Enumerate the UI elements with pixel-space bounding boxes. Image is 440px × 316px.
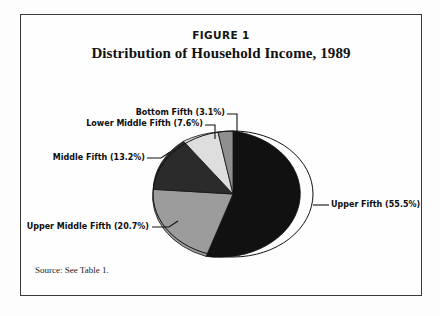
pie-label-upper-fifth: Upper Fifth (55.5%) xyxy=(331,201,420,209)
pie-label-middle-fifth: Middle Fifth (13.2%) xyxy=(31,154,145,162)
pie-label-upper-middle-fifth: Upper Middle Fifth (20.7%) xyxy=(21,223,149,231)
source-note: Source: See Table 1. xyxy=(35,265,109,275)
pie-label-lower-middle-fifth: Lower Middle Fifth (7.6%) xyxy=(43,120,203,128)
figure-page: FIGURE 1 Distribution of Household Incom… xyxy=(0,0,440,316)
figure-frame: FIGURE 1 Distribution of Household Incom… xyxy=(20,14,422,296)
pie-label-bottom-fifth: Bottom Fifth (3.1%) xyxy=(81,109,225,117)
